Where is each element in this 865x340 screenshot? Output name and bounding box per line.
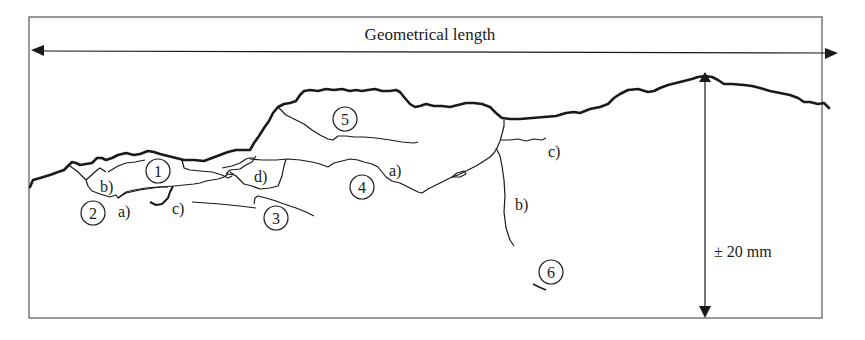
label-zone2-d: d)	[254, 168, 267, 186]
fracture-profile-diagram: Geometrical length ± 20 mm 1	[0, 0, 865, 340]
label-zone4-b: b)	[515, 196, 528, 214]
label-zone4-c: c)	[548, 143, 560, 161]
label-zone2-a: a)	[118, 203, 130, 221]
zone-number-1: 1	[154, 163, 162, 180]
label-zone2-b: b)	[100, 178, 113, 196]
amplitude-arrow	[699, 72, 711, 318]
zone-marker-2: 2	[81, 201, 105, 225]
zone-number-5: 5	[341, 111, 349, 128]
crack-zone3-hook	[254, 196, 314, 216]
scale-label: ± 20 mm	[714, 243, 772, 260]
diagram-title: Geometrical length	[365, 25, 496, 44]
arrowhead-left-icon	[31, 45, 44, 56]
crack-zone3-main	[192, 202, 256, 208]
arrowhead-right-icon	[825, 48, 838, 59]
crack-zone4-a	[250, 120, 504, 193]
crack-zone4-c	[501, 138, 546, 141]
zone-number-2: 2	[89, 205, 97, 222]
zone-marker-5: 5	[333, 107, 357, 131]
fracture-surface-profile	[30, 76, 829, 187]
diagram-frame	[29, 17, 822, 318]
crack-zone6	[533, 284, 546, 290]
geometrical-length-arrow	[31, 45, 838, 59]
label-zone2-c: c)	[172, 200, 184, 218]
crack-network	[70, 107, 546, 290]
zone-number-6: 6	[547, 264, 555, 281]
zone-number-3: 3	[272, 210, 280, 227]
zone-marker-3: 3	[264, 206, 288, 230]
zone-marker-4: 4	[350, 175, 374, 199]
crack-zone2-b-upper	[86, 160, 145, 180]
label-zone4-a: a)	[389, 162, 401, 180]
crack-zone4-b	[496, 148, 514, 246]
arrowhead-down-icon	[699, 306, 711, 318]
crack-zone2-c	[150, 186, 173, 205]
zone-number-4: 4	[358, 179, 366, 196]
zone-marker-6: 6	[539, 260, 563, 284]
crack-zone2-a	[118, 174, 234, 198]
zone-marker-1: 1	[146, 159, 170, 183]
